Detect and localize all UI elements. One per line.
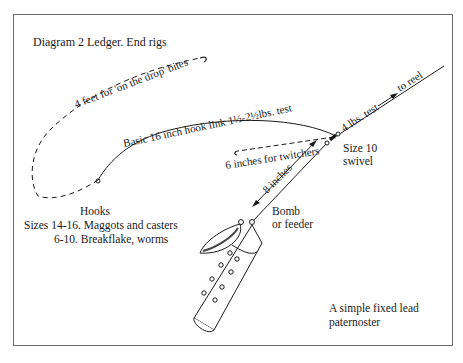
swivel-icon [330, 135, 336, 140]
caption-line-1: A simple fixed lead [329, 302, 419, 315]
hooks-line-2: 6-10. Breakflake, worms [54, 233, 168, 246]
twitchers-label: 6 inches for twitchers [224, 144, 320, 171]
main-line-label: 4 lbs. test [339, 101, 381, 134]
caption-line-2: paternoster [329, 316, 380, 329]
hook-link-label: Basic 16 inch hook link 1½-2½lbs. test [122, 101, 293, 149]
feeder-label: or feeder [272, 218, 313, 231]
bomb-label: Bomb [272, 205, 300, 218]
diagram-title: Diagram 2 Ledger. End rigs [33, 36, 167, 49]
swivel-label-size: Size 10 [343, 142, 377, 155]
hook-icon [235, 151, 238, 155]
hooks-heading: Hooks [80, 205, 110, 218]
boom-length-label: 8 inches [260, 161, 294, 195]
hooks-line-1: Sizes 14-16. Maggots and casters [24, 219, 178, 232]
hook-icon [200, 57, 206, 62]
swivel-label: swivel [343, 155, 373, 168]
to-reel-label: to reel [395, 68, 425, 93]
dropper-length-label: 4 feet for 'on the drop' bites [72, 55, 189, 109]
